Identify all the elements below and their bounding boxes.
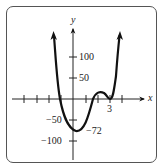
min-value-annotation: −72 bbox=[86, 126, 102, 136]
y-tick-label-neg100: −100 bbox=[41, 136, 62, 146]
y-axis-label: y bbox=[71, 15, 75, 25]
x-axis-label: x bbox=[148, 93, 152, 103]
y-tick-label-50: 50 bbox=[79, 73, 89, 83]
y-tick-label-100: 100 bbox=[79, 52, 94, 62]
y-tick-label-neg50: −50 bbox=[46, 115, 62, 125]
graph-canvas bbox=[0, 0, 162, 168]
x-tick-label-3: 3 bbox=[107, 104, 112, 114]
